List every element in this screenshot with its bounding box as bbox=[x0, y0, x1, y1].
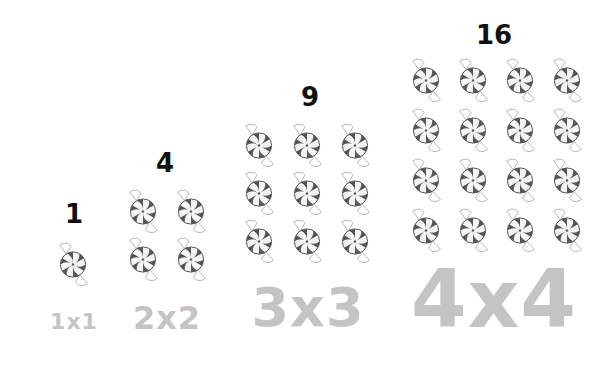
peppermint-candy-icon bbox=[128, 237, 158, 286]
peppermint-candy-icon bbox=[176, 189, 206, 238]
dimension-label: 4x4 bbox=[374, 260, 603, 340]
peppermint-candy-icon bbox=[458, 158, 488, 207]
peppermint-candy-icon bbox=[411, 158, 441, 207]
peppermint-candy-icon bbox=[552, 108, 582, 157]
count-label: 16 bbox=[454, 22, 534, 48]
peppermint-candy-icon bbox=[458, 208, 488, 257]
peppermint-candy-icon bbox=[244, 123, 274, 172]
peppermint-candy-icon bbox=[458, 58, 488, 107]
peppermint-candy-icon bbox=[292, 123, 322, 172]
peppermint-candy-icon bbox=[340, 219, 370, 268]
peppermint-candy-icon bbox=[505, 208, 535, 257]
peppermint-candy-icon bbox=[244, 171, 274, 220]
peppermint-candy-icon bbox=[458, 108, 488, 157]
count-label: 4 bbox=[125, 150, 205, 176]
peppermint-candy-icon bbox=[411, 208, 441, 257]
peppermint-candy-icon bbox=[128, 189, 158, 238]
peppermint-candy-icon bbox=[58, 242, 88, 291]
peppermint-candy-icon bbox=[552, 58, 582, 107]
peppermint-candy-icon bbox=[292, 219, 322, 268]
peppermint-candy-icon bbox=[340, 171, 370, 220]
peppermint-candy-icon bbox=[340, 123, 370, 172]
peppermint-candy-icon bbox=[176, 237, 206, 286]
peppermint-candy-icon bbox=[552, 158, 582, 207]
peppermint-candy-icon bbox=[411, 58, 441, 107]
peppermint-candy-icon bbox=[505, 158, 535, 207]
peppermint-candy-icon bbox=[505, 58, 535, 107]
peppermint-candy-icon bbox=[505, 108, 535, 157]
peppermint-candy-icon bbox=[552, 208, 582, 257]
count-label: 9 bbox=[270, 84, 350, 110]
peppermint-candy-icon bbox=[292, 171, 322, 220]
count-label: 1 bbox=[34, 201, 114, 227]
peppermint-candy-icon bbox=[411, 108, 441, 157]
peppermint-candy-icon bbox=[244, 219, 274, 268]
